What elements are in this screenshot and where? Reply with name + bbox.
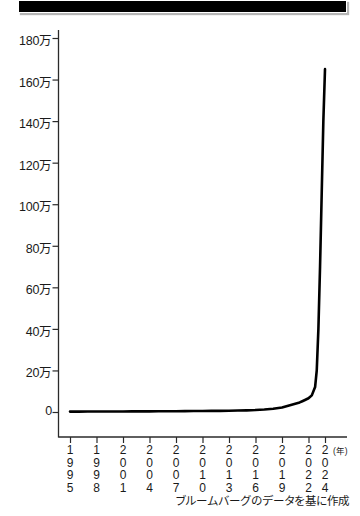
line-chart: 180万160万140万120万100万80万60万40万20万0 199519… [0, 0, 360, 516]
x-tick-label: 2004 [139, 444, 161, 494]
x-tick-label: 1995 [59, 444, 81, 494]
x-tick-label: 2019 [271, 444, 293, 494]
x-axis-labels: 1995199820012004200720102013201620192022… [0, 0, 360, 516]
x-tick-label: 2007 [165, 444, 187, 494]
x-tick-label: 1998 [86, 444, 108, 494]
x-tick-label: 2016 [245, 444, 267, 494]
x-axis-unit-label: (年) [333, 444, 348, 456]
x-tick-label: 2001 [112, 444, 134, 494]
x-tick-label: 2013 [218, 444, 240, 494]
source-caption: ブルームバーグのデータを基に作成 [0, 492, 349, 508]
x-tick-label: 2010 [192, 444, 214, 494]
